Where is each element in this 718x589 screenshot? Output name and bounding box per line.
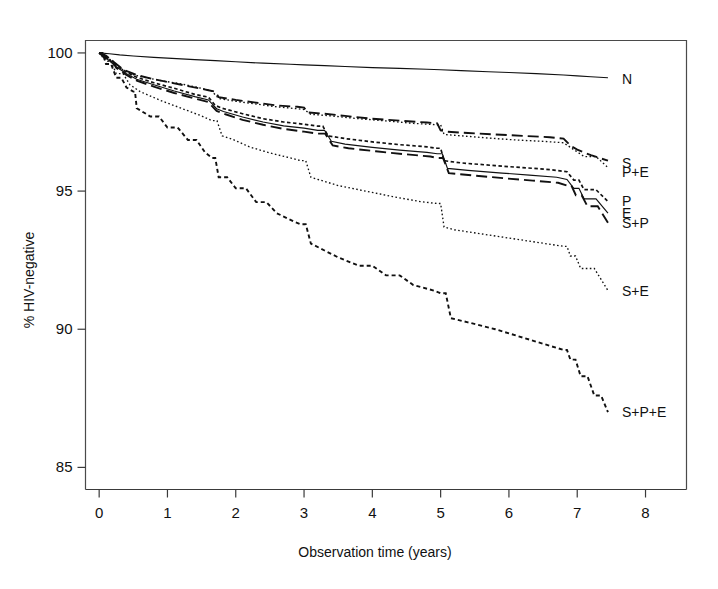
- survival-curve-chart: 012345678859095100 NSP+EPES+PS+ES+P+E Ob…: [0, 0, 718, 589]
- series-label-p-e: P+E: [622, 164, 649, 180]
- curve-series-group: [99, 53, 608, 412]
- x-tick-label: 3: [300, 504, 308, 521]
- x-tick-label: 5: [436, 504, 444, 521]
- x-tick-label: 6: [505, 504, 513, 521]
- plot-box-outline: [86, 41, 687, 490]
- x-tick-label: 2: [232, 504, 240, 521]
- axis-ticks: [78, 53, 646, 498]
- y-tick-label: 85: [56, 458, 73, 475]
- x-tick-label: 1: [163, 504, 171, 521]
- series-labels: NSP+EPES+PS+ES+P+E: [622, 71, 666, 420]
- series-label-s-p-e: S+P+E: [622, 404, 666, 420]
- series-label-n: N: [622, 71, 632, 87]
- y-tick-label: 100: [47, 44, 72, 61]
- y-tick-label: 95: [56, 182, 73, 199]
- series-label-s-e: S+E: [622, 283, 649, 299]
- curve-p-e: [99, 53, 608, 168]
- x-tick-label: 4: [368, 504, 376, 521]
- x-tick-label: 7: [573, 504, 581, 521]
- x-tick-label: 0: [95, 504, 103, 521]
- y-tick-label: 90: [56, 320, 73, 337]
- curve-s-p-e: [99, 53, 608, 412]
- curve-s: [99, 53, 608, 161]
- x-tick-label: 8: [641, 504, 649, 521]
- curve-s-p: [99, 53, 608, 223]
- plot-frame: [86, 41, 687, 490]
- series-label-s-p: S+P: [622, 215, 649, 231]
- x-axis-title: Observation time (years): [298, 544, 451, 560]
- figure-container: 012345678859095100 NSP+EPES+PS+ES+P+E Ob…: [0, 0, 718, 589]
- y-axis-title: % HIV-negative: [21, 232, 37, 329]
- curve-p: [99, 53, 608, 202]
- curve-n: [99, 53, 608, 78]
